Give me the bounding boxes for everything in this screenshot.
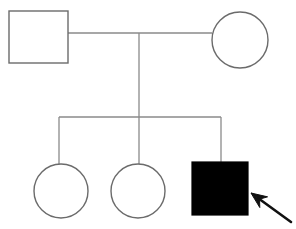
generation-2	[34, 162, 248, 218]
symbol-son-male-affected[interactable]	[192, 162, 248, 215]
proband-arrow	[251, 193, 291, 222]
symbol-father-male-unaffected[interactable]	[9, 11, 68, 63]
pedigree-canvas	[0, 0, 296, 229]
connection-lines	[59, 33, 221, 167]
pedigree-diagram	[0, 0, 296, 229]
symbol-daughter-1-female-unaffected[interactable]	[34, 164, 88, 218]
symbol-daughter-2-female-unaffected[interactable]	[111, 164, 165, 218]
proband-arrow-shaft	[258, 198, 291, 222]
symbol-mother-female-unaffected[interactable]	[212, 12, 268, 68]
